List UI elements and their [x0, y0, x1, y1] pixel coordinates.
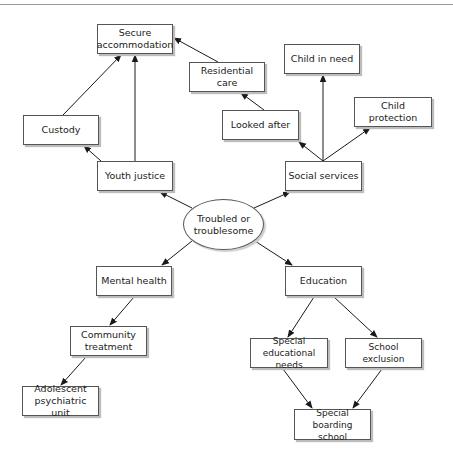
node-looked-after: Looked after — [222, 110, 299, 140]
center-node-label: Troubled or troublesome — [192, 213, 256, 237]
edge-troubled-to-youth-justice — [160, 192, 192, 208]
edge-sen-to-boarding — [283, 369, 312, 408]
node-label: Child protection — [366, 100, 420, 124]
edge-troubled-to-mental-health — [162, 241, 192, 265]
node-community-treatment: Community treatment — [70, 326, 147, 356]
edge-education-to-exclusion — [334, 297, 377, 337]
center-node-troubled: Troubled or troublesome — [183, 199, 264, 250]
node-label: Special educational needs — [253, 335, 325, 371]
node-social-services: Social services — [285, 161, 362, 191]
edge-troubled-to-education — [255, 241, 292, 265]
node-mental-health: Mental health — [96, 266, 172, 296]
edge-exclusion-to-boarding — [353, 369, 382, 408]
node-secure-accommodation: Secure accommodation — [97, 24, 173, 54]
node-special-educational-needs: Special educational needs — [250, 338, 328, 368]
node-label: Education — [300, 275, 347, 287]
node-label: Youth justice — [105, 170, 165, 182]
node-child-protection: Child protection — [354, 97, 432, 127]
edge-youth-justice-to-custody — [84, 146, 101, 161]
node-school-exclusion: School exclusion — [345, 338, 422, 368]
node-label: School exclusion — [348, 341, 419, 365]
node-label: Community treatment — [79, 329, 139, 353]
node-label: Residential care — [200, 65, 254, 89]
node-custody: Custody — [23, 115, 99, 145]
node-child-in-need: Child in need — [284, 44, 360, 74]
node-label: Secure accommodation — [97, 27, 173, 51]
node-label: Child in need — [291, 53, 353, 65]
node-label: Looked after — [231, 119, 290, 131]
node-label: Adolescent psychiatric unit — [25, 383, 96, 419]
edge-troubled-to-social-services — [254, 192, 290, 208]
node-label: Social services — [288, 170, 358, 182]
edge-social-services-to-looked-after — [299, 142, 323, 161]
node-residential-care: Residential care — [189, 62, 265, 92]
node-education: Education — [285, 266, 362, 296]
edge-community-to-adolescent — [61, 357, 86, 385]
node-youth-justice: Youth justice — [97, 161, 173, 191]
node-label: Mental health — [101, 275, 166, 287]
edge-custody-to-secure — [63, 55, 121, 115]
edge-mental-health-to-community — [110, 297, 134, 325]
node-special-boarding-school: Special boarding school — [294, 409, 371, 440]
edge-social-services-to-child-protection — [323, 128, 370, 161]
node-label: Special boarding school — [297, 407, 368, 443]
edge-residential-to-secure — [174, 38, 218, 62]
edge-education-to-sen — [288, 297, 314, 337]
edge-looked-after-to-residential — [241, 93, 264, 110]
node-adolescent-psychiatric-unit: Adolescent psychiatric unit — [22, 386, 99, 416]
node-label: Custody — [42, 124, 81, 136]
